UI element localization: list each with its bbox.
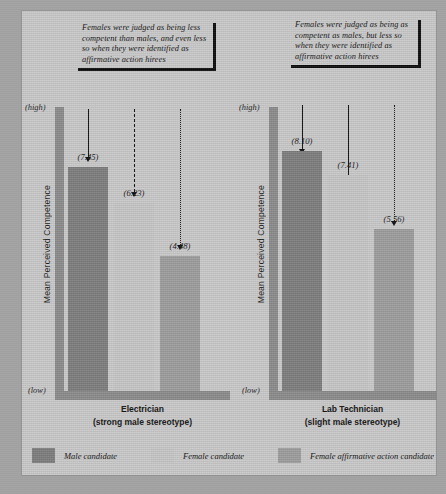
legend-label: Female affirmative action candidate	[310, 451, 434, 461]
bar-value-label: (8.10)	[292, 136, 313, 146]
legend-swatch-icon	[278, 448, 301, 463]
annotation-callout: Females were judged as being as competen…	[291, 20, 421, 68]
bar-value-label: (4.48)	[170, 241, 191, 251]
legend-item-female: Female candidate	[151, 448, 244, 463]
x-axis-category-label: Lab Technician (slight male stereotype)	[265, 403, 440, 428]
x-axis-category-label: Electrician (strong male stereotype)	[55, 403, 230, 428]
bar-female-aa: (4.48)	[160, 256, 200, 391]
legend-label: Female candidate	[183, 451, 244, 461]
annotation-callout: Females were judged as being less compet…	[78, 23, 216, 71]
y-axis-low-label: (low)	[28, 386, 46, 395]
legend-item-male: Male candidate	[32, 448, 117, 463]
legend-item-female-aa: Female affirmative action candidate	[278, 448, 434, 463]
chart-legend: Male candidate Female candidate Female a…	[22, 448, 436, 472]
bar-value-label: (7.45)	[78, 152, 99, 162]
legend-label: Male candidate	[64, 451, 117, 461]
category-name: Electrician	[55, 403, 230, 416]
plot-area: (high) (low) Mean Perceived Competence (…	[22, 107, 229, 391]
y-axis-low-label: (low)	[242, 386, 260, 395]
bar-value-label: (5.56)	[384, 214, 405, 224]
category-subtitle: (slight male stereotype)	[265, 416, 440, 429]
chart-panel-electrician: Females were judged as being less compet…	[22, 11, 229, 475]
legend-swatch-icon	[32, 448, 55, 463]
bar-value-label: (6.23)	[124, 188, 145, 198]
y-axis-high-label: (high)	[25, 103, 45, 112]
category-name: Lab Technician	[265, 403, 440, 416]
bar-female: (7.41)	[328, 175, 368, 391]
bar-male: (8.10)	[282, 151, 322, 391]
plot-area: (high) (low) Mean Perceived Competence (…	[229, 107, 436, 391]
y-axis-high-label: (high)	[239, 103, 259, 112]
x-axis-baseline	[269, 391, 437, 400]
y-axis-title: Mean Perceived Competence	[42, 185, 52, 303]
annotation-arrow-male	[88, 109, 89, 157]
bar-female-aa: (5.56)	[374, 229, 414, 391]
bar-value-label: (7.41)	[338, 160, 359, 170]
annotation-arrow-female	[134, 109, 135, 192]
y-axis	[269, 107, 278, 391]
y-axis	[55, 107, 64, 391]
legend-swatch-icon	[151, 448, 174, 463]
y-axis-title: Mean Perceived Competence	[256, 185, 266, 303]
x-axis-baseline	[55, 391, 230, 400]
bar-female: (6.23)	[114, 203, 154, 391]
figure-container: Females were judged as being less compet…	[22, 11, 436, 475]
annotation-arrow-female-aa	[180, 109, 181, 245]
chart-panel-lab-technician: Females were judged as being as competen…	[229, 11, 436, 475]
bar-male: (7.45)	[68, 167, 108, 391]
category-subtitle: (strong male stereotype)	[55, 416, 230, 429]
annotation-arrow-female-aa	[394, 105, 395, 221]
